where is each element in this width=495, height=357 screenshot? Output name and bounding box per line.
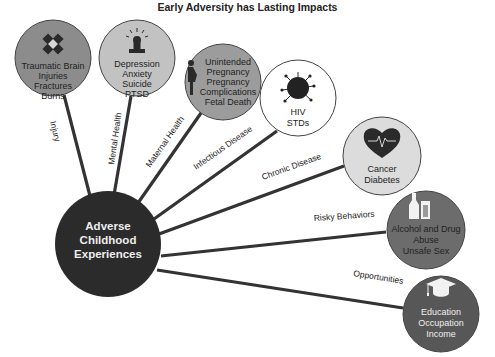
outcome-line: Cancer bbox=[367, 164, 396, 174]
outcome-line: Burns bbox=[41, 91, 65, 101]
outcome-line: Pregnancy bbox=[206, 67, 250, 77]
outcome-line: Anxiety bbox=[122, 69, 152, 79]
outcome-line: HIV bbox=[290, 107, 305, 117]
outcome-line: Fractures bbox=[34, 81, 73, 91]
outcome-line: STDs bbox=[287, 118, 310, 128]
outcome-node-chronic-disease: Cancer Diabetes bbox=[343, 117, 421, 195]
outcome-line: Suicide bbox=[122, 79, 152, 89]
edge-label-infectious-disease: Infectious Disease bbox=[191, 123, 254, 171]
outcome-line: Traumatic Brain bbox=[21, 61, 84, 71]
outcome-node-maternal-health: Unintended Pregnancy Pregnancy Complicat… bbox=[185, 44, 261, 120]
edge-label-injury: Injury bbox=[48, 120, 63, 143]
edge-label-risky-behaviors: Risky Behaviors bbox=[313, 209, 374, 223]
outcome-node-injury: Traumatic Brain Injuries Fractures Burns bbox=[15, 20, 91, 101]
outcome-line: Depression bbox=[114, 59, 160, 69]
center-line: Adverse bbox=[85, 220, 130, 232]
outcome-line: Unsafe Sex bbox=[403, 246, 450, 256]
outcome-node-opportunities: Education Occupation Income bbox=[403, 276, 479, 352]
outcome-line: Unintended bbox=[205, 57, 251, 67]
connector-injury bbox=[64, 95, 90, 196]
outcome-line: Injuries bbox=[38, 71, 68, 81]
outcome-line: Occupation bbox=[418, 318, 464, 328]
edge-label-opportunities: Opportunities bbox=[353, 268, 405, 286]
center-line: Experiences bbox=[74, 248, 142, 260]
connector-infectious-disease bbox=[154, 131, 277, 219]
outcome-line: Diabetes bbox=[364, 175, 400, 185]
outcome-node-risky-behaviors: Alcohol and Drug Abuse Unsafe Sex bbox=[387, 191, 465, 269]
outcome-line: PTSD bbox=[125, 89, 150, 99]
center-line: Childhood bbox=[80, 234, 137, 246]
outcome-line: Complications bbox=[200, 87, 257, 97]
outcome-line: Fetal Death bbox=[205, 97, 252, 107]
outcome-line: Alcohol and Drug bbox=[391, 224, 460, 234]
ace-diagram: Injury Mental Health Maternal Health Inf… bbox=[0, 0, 495, 357]
outcome-node-mental-health: Depression Anxiety Suicide PTSD bbox=[99, 20, 175, 99]
connector-risky-behaviors bbox=[161, 232, 386, 256]
outcome-line: Pregnancy bbox=[206, 77, 250, 87]
outcome-line: Abuse bbox=[413, 235, 439, 245]
outcome-line: Income bbox=[426, 329, 456, 339]
outcome-line: Education bbox=[421, 307, 461, 317]
outcome-node-infectious-disease: HIV STDs bbox=[260, 60, 336, 136]
connector-chronic-disease bbox=[159, 166, 344, 234]
center-node-aces: Adverse Childhood Experiences bbox=[55, 191, 161, 297]
